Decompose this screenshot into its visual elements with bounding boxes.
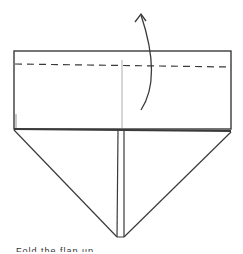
triangle-right-edge: [124, 132, 231, 237]
origami-diagram: [0, 0, 243, 254]
top-flap: [14, 51, 231, 129]
arrow-head-icon: [135, 14, 146, 22]
triangle-left-edge: [14, 130, 117, 237]
center-slit-left: [117, 131, 118, 237]
